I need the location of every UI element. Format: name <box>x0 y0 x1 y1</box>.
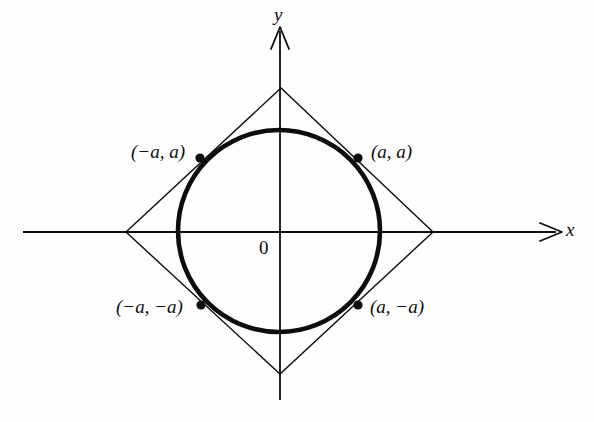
point-label-top-left: (−a, a) <box>131 142 185 161</box>
tangent-point-top-left <box>195 153 204 162</box>
diagram-svg <box>0 0 594 422</box>
inscribed-circle <box>178 130 380 332</box>
point-label-top-right: (a, a) <box>371 142 412 161</box>
origin-label: 0 <box>259 238 269 257</box>
point-label-bottom-right: (a, −a) <box>370 297 424 316</box>
figure-canvas: (−a, a) (a, a) (−a, −a) (a, −a) y x 0 <box>0 0 594 422</box>
tangent-point-bottom-right <box>353 300 362 309</box>
x-axis-label: x <box>566 220 574 239</box>
point-label-bottom-left: (−a, −a) <box>116 297 183 316</box>
y-axis-label: y <box>274 5 282 24</box>
tangent-point-top-right <box>353 153 362 162</box>
tangent-point-bottom-left <box>196 300 205 309</box>
